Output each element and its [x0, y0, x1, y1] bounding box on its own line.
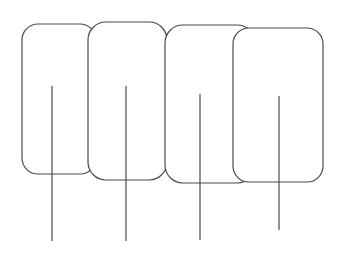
card-4 [233, 28, 323, 182]
card-group [22, 22, 323, 241]
rounded-card-outline [233, 28, 323, 182]
card-2 [88, 22, 167, 180]
diagram-canvas [0, 0, 341, 260]
card-1 [22, 24, 96, 174]
rounded-card-outline [88, 22, 167, 180]
rounded-card-outline [22, 24, 96, 174]
